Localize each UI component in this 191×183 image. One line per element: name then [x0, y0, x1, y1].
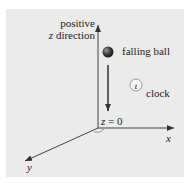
z-axis-label-line2: z direction [48, 29, 96, 41]
y-axis-label: y [26, 161, 32, 173]
y-axis [25, 128, 98, 161]
z-axis-label-line1: positive [60, 17, 95, 29]
diagram-canvas: t positive z direction falling ball cloc… [0, 0, 191, 183]
origin-label: z = 0 [100, 115, 123, 127]
clock-label: clock [146, 87, 170, 99]
x-axis-label: x [165, 132, 171, 144]
ball-icon [103, 47, 114, 58]
ball-label: falling ball [122, 45, 170, 57]
